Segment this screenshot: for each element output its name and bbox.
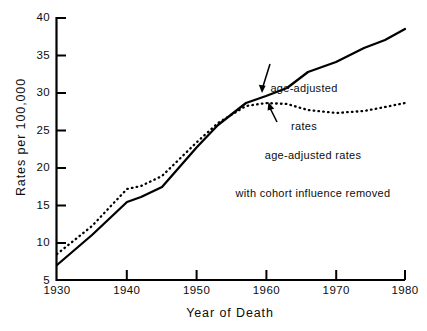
x-tick-label-1950: 1950 [174,284,220,296]
annotation-line-2: with cohort influence removed [222,187,404,200]
x-axis-ticks [127,270,405,280]
x-tick-label-1940: 1940 [104,284,150,296]
chart-figure: 40 35 30 25 20 15 10 5 1930 1940 1950 19… [0,0,427,331]
y-axis-title: Rates per 100,000 [14,42,28,232]
y-tick-label-10: 10 [24,236,50,248]
x-tick-label-1970: 1970 [313,284,359,296]
annotation-line-1: age-adjusted rates [222,149,404,162]
annotation-line-1: age-adjusted [248,82,360,95]
x-axis-title: Year of Death [150,306,310,320]
annotation-cohort-influence-removed: age-adjusted rates with cohort influence… [222,124,404,224]
x-tick-label-1930: 1930 [34,284,80,296]
x-tick-label-1960: 1960 [243,284,289,296]
y-tick-label-40: 40 [24,11,50,23]
x-tick-label-1980: 1980 [382,284,427,296]
